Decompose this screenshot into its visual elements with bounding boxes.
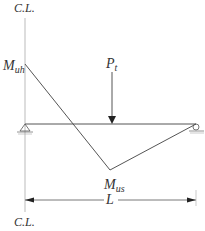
centerline-label-top: C.L. xyxy=(14,1,35,15)
load-arrow-icon xyxy=(108,72,116,124)
load-label: Pt xyxy=(105,56,118,73)
moment-diagram: C.L. Muh Pt Mus L C.L. xyxy=(0,0,205,231)
roller-support-icon xyxy=(189,124,204,133)
moment-hogging-label: Muh xyxy=(2,58,25,75)
span-label: L xyxy=(105,192,114,207)
centerline-label-bottom: C.L. xyxy=(14,215,35,229)
